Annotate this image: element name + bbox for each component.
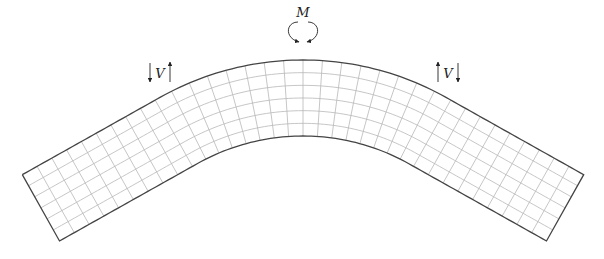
mesh-column-line — [155, 100, 192, 166]
mesh-column-line — [207, 76, 232, 148]
mesh-column-line — [96, 133, 133, 199]
mesh-column-line — [37, 166, 74, 232]
shear-right-label: V — [443, 66, 454, 81]
mesh-column-line — [458, 125, 495, 191]
shear-left-annotation: V — [150, 62, 170, 82]
mesh-column-line — [81, 142, 118, 208]
mesh-column-line — [532, 166, 569, 232]
moment-arrow-left-icon — [288, 22, 299, 42]
mesh-column-line — [360, 70, 380, 143]
mesh-column-line — [126, 117, 163, 183]
mesh-column-line — [502, 150, 539, 216]
mesh-column-line — [374, 76, 399, 148]
mesh-column-line — [111, 125, 148, 191]
shear-right-annotation: V — [438, 62, 458, 82]
shear-left-label: V — [155, 66, 166, 81]
mesh-row-line — [53, 123, 552, 230]
mesh-column-line — [473, 133, 510, 199]
mesh-column-line — [400, 91, 434, 159]
mesh-column-line — [387, 83, 417, 153]
mesh-column-line — [443, 117, 480, 183]
curved-beam-diagram: M V V — [0, 0, 604, 259]
mesh-column-line — [226, 70, 246, 143]
mesh-column-line — [67, 150, 104, 216]
mesh-column-line — [517, 158, 554, 224]
moment-annotation: M — [288, 5, 317, 42]
mesh-column-line — [487, 142, 524, 208]
mesh-column-line — [414, 100, 451, 166]
mesh-column-line — [52, 158, 89, 224]
mesh-column-line — [140, 108, 177, 174]
beam-mesh-grid — [29, 60, 578, 233]
mesh-column-line — [172, 91, 206, 159]
mesh-column-line — [428, 108, 465, 174]
mesh-column-line — [189, 83, 219, 153]
moment-label: M — [295, 5, 310, 20]
moment-arrow-right-icon — [307, 22, 318, 42]
